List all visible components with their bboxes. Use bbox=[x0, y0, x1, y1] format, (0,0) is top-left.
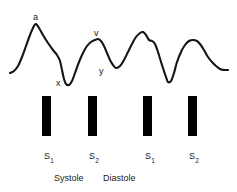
phase-label-diastole: Diastole bbox=[103, 174, 136, 183]
heart-sound-label-s2-second: S2 bbox=[189, 152, 199, 163]
jugular-venous-pressure-trace bbox=[10, 24, 228, 85]
heart-sound-bar-s2-second bbox=[188, 96, 197, 136]
heart-sound-label-s1-second: S1 bbox=[145, 152, 155, 163]
phase-label-systole: Systole bbox=[54, 174, 84, 183]
jvp-waveform-figure: a x v y S1 S2 S1 S2 Systole Diastole bbox=[0, 0, 237, 192]
annotation-a-wave: a bbox=[33, 13, 38, 22]
heart-sound-label-s2-first: S2 bbox=[89, 152, 99, 163]
annotation-x-descent: x bbox=[56, 79, 61, 88]
heart-sound-bar-s1-first bbox=[42, 96, 51, 136]
annotation-v-wave: v bbox=[94, 29, 99, 38]
waveform-plot bbox=[0, 0, 237, 192]
heart-sound-bar-s1-second bbox=[143, 96, 152, 136]
heart-sound-bar-s2-first bbox=[88, 96, 97, 136]
heart-sound-label-s1-first: S1 bbox=[44, 152, 54, 163]
annotation-y-descent: y bbox=[99, 67, 104, 76]
